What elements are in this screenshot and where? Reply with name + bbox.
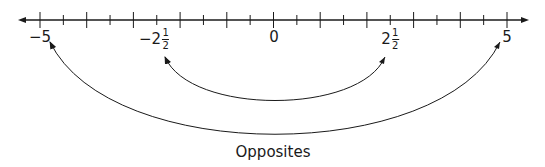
label-pos-5: 5 bbox=[502, 30, 512, 45]
caption: Opposites bbox=[236, 143, 311, 161]
label-pos-2-half: 212 bbox=[381, 28, 399, 51]
number-line-diagram bbox=[0, 0, 545, 167]
left-arrow-icon bbox=[18, 17, 26, 23]
arrowhead-icon bbox=[379, 57, 385, 64]
ticks bbox=[40, 12, 507, 28]
inner-arc bbox=[165, 57, 385, 101]
arrowhead-icon bbox=[165, 57, 171, 64]
number-line bbox=[18, 12, 529, 28]
arrowhead-icon bbox=[494, 42, 500, 49]
label-neg-2-half: −212 bbox=[139, 28, 169, 51]
outer-arc bbox=[50, 42, 500, 134]
label-neg-5: −5 bbox=[29, 30, 51, 45]
right-arrow-icon bbox=[521, 17, 529, 23]
label-zero: 0 bbox=[269, 30, 279, 45]
